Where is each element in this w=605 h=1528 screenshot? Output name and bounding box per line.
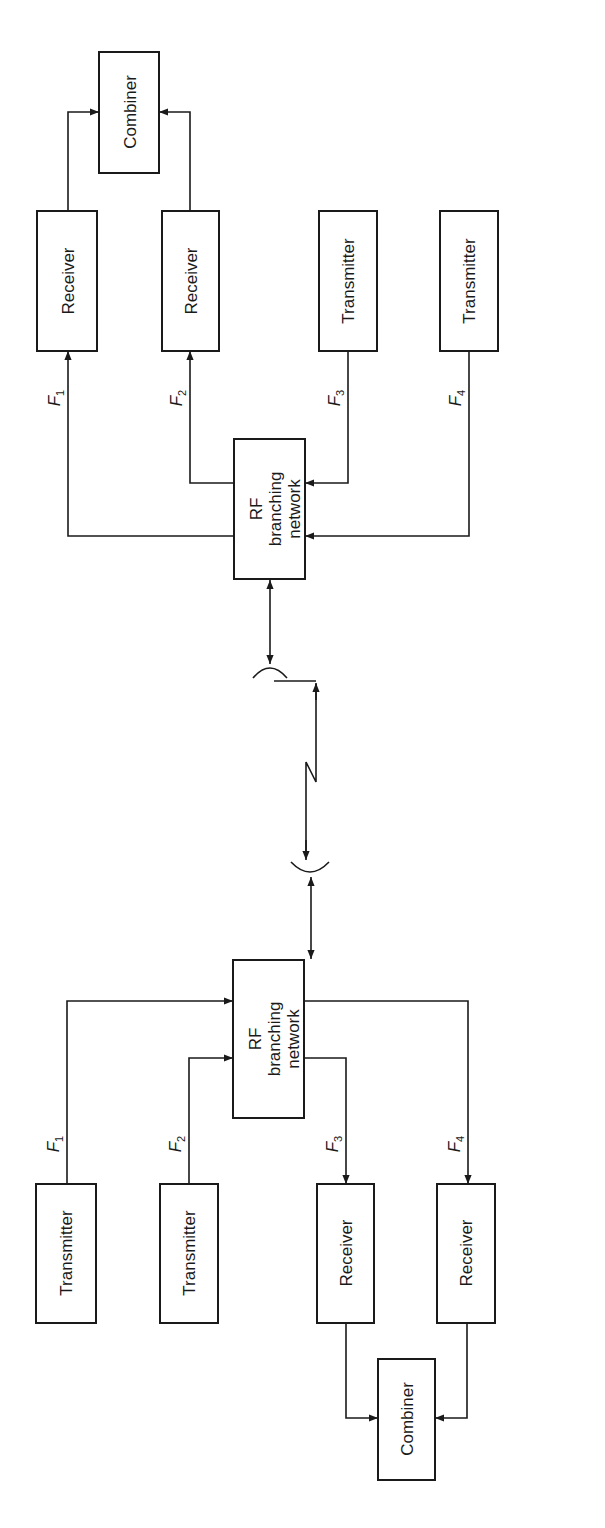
receiver-b4-label: Receiver: [457, 1219, 476, 1286]
connector-f4-a: [305, 351, 469, 536]
connector-f2-a: [190, 351, 234, 483]
freq-label-b1: F1: [44, 1136, 65, 1153]
diagram-canvas: Combiner Receiver Receiver Transmitter T…: [0, 0, 605, 1528]
connector-f1-b: [67, 1001, 233, 1184]
transmitter-b2-label: Transmitter: [180, 1210, 199, 1296]
rf-b-line3: network: [284, 1009, 303, 1069]
svg-text:F1: F1: [44, 1136, 65, 1153]
freq-label-a1: F1: [45, 390, 66, 407]
station-b: RF branching network Transmitter Transmi…: [36, 862, 495, 1480]
connector-f3-a: [305, 351, 348, 483]
rf-branching-network-a: RF branching network: [234, 439, 305, 579]
rf-a-line1: RF: [247, 498, 266, 521]
freq-label-b3: F3: [323, 1136, 344, 1153]
receiver-a1-label: Receiver: [59, 247, 78, 314]
connector-r1-combiner: [68, 112, 99, 211]
combiner-b: Combiner: [378, 1359, 435, 1480]
rf-a-line3: network: [285, 479, 304, 539]
connector-f4-b: [304, 1001, 468, 1184]
rf-b-line1: RF: [246, 1028, 265, 1051]
radio-link-zigzag: [306, 684, 316, 858]
receiver-a2-label: Receiver: [182, 247, 201, 314]
combiner-b-label: Combiner: [398, 1382, 417, 1456]
transmitter-a4: Transmitter: [440, 211, 498, 351]
connector-r3-combiner: [346, 1323, 378, 1418]
combiner-a-label: Combiner: [121, 75, 140, 149]
receiver-b4: Receiver: [437, 1184, 495, 1323]
connector-r4-combiner: [435, 1323, 467, 1418]
transmitter-a4-label: Transmitter: [460, 238, 479, 324]
transmitter-a3-label: Transmitter: [339, 238, 358, 324]
antenna-b-icon: [291, 862, 329, 872]
svg-text:F4: F4: [445, 1136, 466, 1153]
receiver-a1: Receiver: [37, 211, 97, 351]
svg-text:F3: F3: [323, 1136, 344, 1153]
freq-label-a3: F3: [325, 390, 346, 407]
rf-a-line2: branching: [266, 472, 285, 547]
svg-text:F3: F3: [325, 390, 346, 407]
freq-label-a2: F2: [167, 390, 188, 407]
connector-r2-combiner: [159, 112, 190, 211]
antenna-a-icon: [253, 668, 287, 678]
combiner-a: Combiner: [99, 52, 159, 173]
radio-path: [274, 680, 316, 860]
receiver-b3-label: Receiver: [337, 1219, 356, 1286]
connector-f1-a: [68, 351, 234, 536]
rf-branching-network-b: RF branching network: [233, 960, 304, 1118]
transmitter-b1-label: Transmitter: [57, 1210, 76, 1296]
transmitter-a3: Transmitter: [319, 211, 377, 351]
svg-text:F2: F2: [167, 390, 188, 407]
transmitter-b2: Transmitter: [160, 1184, 218, 1323]
svg-text:F2: F2: [166, 1136, 187, 1153]
connector-f3-b: [304, 1058, 346, 1184]
rf-b-line2: branching: [265, 1002, 284, 1077]
freq-label-a4: F4: [446, 390, 467, 407]
freq-label-b4: F4: [445, 1136, 466, 1153]
freq-label-b2: F2: [166, 1136, 187, 1153]
svg-text:F1: F1: [45, 390, 66, 407]
transmitter-b1: Transmitter: [36, 1184, 96, 1323]
receiver-a2: Receiver: [162, 211, 219, 351]
connector-f2-b: [189, 1058, 233, 1184]
receiver-b3: Receiver: [317, 1184, 374, 1323]
svg-text:F4: F4: [446, 390, 467, 407]
station-a: Combiner Receiver Receiver Transmitter T…: [37, 52, 498, 678]
